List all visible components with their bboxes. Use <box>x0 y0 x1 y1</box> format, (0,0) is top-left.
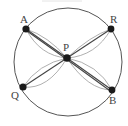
label-b: B <box>109 94 116 106</box>
node-b <box>109 87 116 94</box>
line-a-p <box>26 29 67 58</box>
node-q <box>19 83 26 90</box>
label-q: Q <box>11 89 19 101</box>
outer-circle <box>14 8 122 116</box>
node-a <box>22 25 29 32</box>
line-r-p <box>67 29 111 58</box>
label-a: A <box>20 13 28 25</box>
label-p: P <box>63 41 69 53</box>
node-p <box>63 54 71 62</box>
node-r <box>108 26 115 33</box>
label-r: R <box>110 13 118 25</box>
line-p-b <box>67 58 112 90</box>
diagram-canvas: A R P Q B <box>0 0 128 126</box>
line-p-b-double <box>67 60 111 92</box>
line-a-p-double <box>27 31 67 60</box>
